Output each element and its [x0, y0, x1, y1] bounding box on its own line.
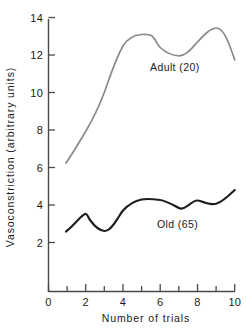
chart-canvas: 14 12 10 8 6 4 2 0 2 4 6 [0, 0, 246, 331]
y-tick-label: 4 [37, 199, 43, 211]
y-tick-label: 10 [30, 87, 43, 99]
chart-figure: 14 12 10 8 6 4 2 0 2 4 6 [0, 0, 246, 331]
x-axis-title: Number of trials [102, 312, 191, 324]
y-tick-label: 14 [30, 12, 43, 24]
x-tick-label: 0 [45, 296, 51, 308]
series-line-adult [66, 28, 235, 163]
y-tick-label: 6 [37, 162, 43, 174]
series-line-old [66, 190, 235, 232]
x-axis-ticks [49, 284, 235, 292]
series-annotation-adult: Adult (20) [150, 61, 200, 73]
x-tick-label: 6 [157, 296, 163, 308]
x-axis-tick-labels: 0 2 4 6 8 10 [45, 296, 241, 308]
y-tick-label: 2 [37, 237, 43, 249]
y-axis-ticks [49, 18, 56, 243]
x-tick-label: 4 [120, 296, 126, 308]
x-tick-label: 10 [228, 296, 241, 308]
x-tick-label: 8 [194, 296, 200, 308]
y-axis-tick-labels: 14 12 10 8 6 4 2 [30, 12, 43, 249]
y-axis-title: Vasoconstriction (arbitrary units) [4, 67, 16, 247]
y-tick-label: 8 [37, 124, 43, 136]
y-tick-label: 12 [30, 49, 43, 61]
x-tick-label: 2 [83, 296, 89, 308]
series-annotation-old: Old (65) [157, 218, 198, 230]
